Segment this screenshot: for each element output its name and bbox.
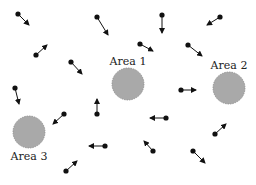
area-label: Area 1 [109, 55, 147, 68]
agent-dot [61, 111, 66, 116]
agent-dot [137, 41, 142, 46]
agent-dot [163, 115, 168, 120]
agent-dot [190, 148, 195, 153]
agent-dot [15, 11, 20, 16]
agent-dot [63, 168, 68, 173]
agent-dot [102, 143, 107, 148]
area-circle [13, 116, 45, 148]
agent-dot [185, 42, 190, 47]
agent-dot [159, 12, 164, 17]
agent-dot [150, 148, 155, 153]
area-circle [213, 72, 245, 104]
area-circle [112, 68, 144, 100]
agent-dot [217, 14, 222, 19]
agent-dot [94, 111, 99, 116]
agent-dot [212, 131, 217, 136]
agent-dot [12, 85, 17, 90]
agent-areas-diagram: Area 1Area 2Area 3 [0, 0, 256, 185]
agent-dot [68, 59, 73, 64]
area-label: Area 2 [210, 59, 248, 72]
agent-dot [94, 14, 99, 19]
area-label: Area 3 [10, 150, 48, 163]
agent-dot [178, 87, 183, 92]
agent-dot [33, 52, 38, 57]
